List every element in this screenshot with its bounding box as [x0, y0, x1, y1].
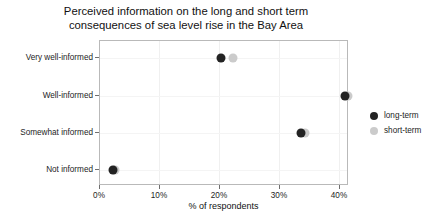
gridline-vertical	[159, 41, 160, 184]
x-tick-mark	[339, 185, 340, 189]
data-point-long-term	[341, 92, 350, 101]
x-tick-label-10: 10%	[151, 191, 167, 200]
legend-swatch-long-term-icon	[370, 112, 378, 120]
y-axis: Very well-informed Well-informed Somewha…	[0, 0, 93, 215]
y-tick-label-very-well-informed: Very well-informed	[26, 53, 93, 62]
legend-item-short-term: short-term	[370, 123, 440, 138]
legend-label-long-term: long-term	[384, 111, 419, 120]
legend-swatch-short-term-icon	[370, 127, 378, 135]
x-tick-label-20: 20%	[211, 191, 227, 200]
y-tick-mark	[95, 57, 99, 58]
x-tick-mark	[159, 185, 160, 189]
y-tick-mark	[95, 95, 99, 96]
x-tick-label-0: 0%	[93, 191, 105, 200]
x-tick-mark	[279, 185, 280, 189]
gridline-horizontal	[100, 133, 347, 134]
gridline-horizontal	[100, 96, 347, 97]
x-axis-title: % of respondents	[99, 201, 348, 211]
y-tick-mark	[95, 132, 99, 133]
data-point-long-term	[297, 129, 306, 138]
x-tick-label-30: 30%	[271, 191, 287, 200]
y-tick-label-well-informed: Well-informed	[43, 91, 93, 100]
data-point-long-term	[217, 54, 226, 63]
gridline-vertical	[279, 41, 280, 184]
legend-item-long-term: long-term	[370, 108, 440, 123]
gridline-vertical	[339, 41, 340, 184]
x-tick-label-40: 40%	[331, 191, 347, 200]
data-point-long-term	[109, 166, 118, 175]
scatter-chart: Perceived information on the long and sh…	[0, 0, 443, 215]
x-tick-mark	[219, 185, 220, 189]
y-tick-mark	[95, 169, 99, 170]
y-tick-label-not-informed: Not informed	[46, 165, 93, 174]
gridline-horizontal	[100, 170, 347, 171]
y-tick-label-somewhat-informed: Somewhat informed	[20, 128, 93, 137]
legend-label-short-term: short-term	[384, 126, 421, 135]
legend: long-term short-term	[370, 108, 440, 138]
data-point-short-term	[229, 54, 238, 63]
plot-area	[99, 40, 348, 185]
x-tick-mark	[99, 185, 100, 189]
